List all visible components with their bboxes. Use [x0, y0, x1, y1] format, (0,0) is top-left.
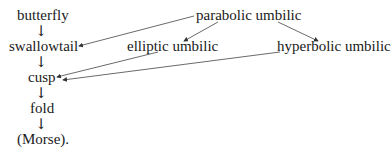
edge-hyperbolic-to-cusp	[63, 52, 280, 80]
node-cusp: cusp	[28, 69, 56, 85]
edge-elliptic-to-cusp	[57, 52, 158, 77]
down-arrow-icon: ↓	[31, 23, 51, 39]
node-elliptic-umbilic: elliptic umbilic	[127, 38, 218, 54]
node-butterfly: butterfly	[17, 7, 69, 23]
node-fold: fold	[30, 100, 54, 116]
node-hyperbolic-umbilic: hyperbolic umbilic	[277, 38, 391, 54]
down-arrow-icon: ↓	[31, 85, 51, 101]
down-arrow-icon: ↓	[31, 54, 51, 70]
node-swallowtail: swallowtail	[9, 38, 78, 54]
node-morse: (Morse).	[17, 131, 69, 147]
node-parabolic-umbilic: parabolic umbilic	[196, 7, 301, 23]
down-arrow-icon: ↓	[31, 116, 51, 132]
